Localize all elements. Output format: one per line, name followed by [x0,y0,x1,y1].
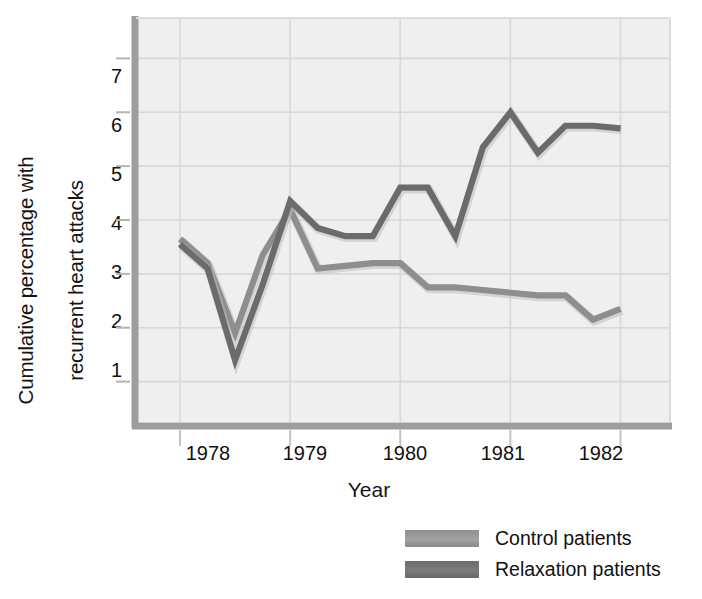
legend-item-relaxation: Relaxation patients [405,556,661,583]
legend-item-control: Control patients [405,525,661,552]
legend-label-relaxation: Relaxation patients [495,560,661,580]
legend-swatch-relaxation [405,561,479,578]
legend-label-control: Control patients [495,529,632,549]
plot-area [0,0,702,599]
chart-legend: Control patients Relaxation patients [405,525,661,587]
chart-figure: Cumulative percentage with recurrent hea… [0,0,702,599]
legend-swatch-control [405,530,479,547]
